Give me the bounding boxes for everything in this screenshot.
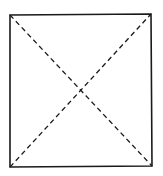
square-diagonals-diagram xyxy=(0,0,163,176)
